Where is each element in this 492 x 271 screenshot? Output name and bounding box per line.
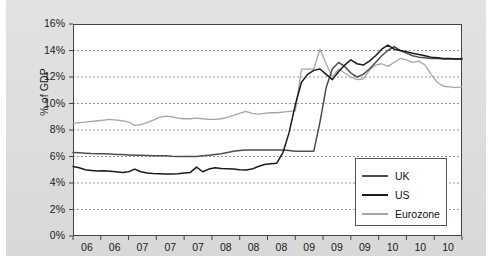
series-line-eurozone	[73, 49, 462, 125]
legend-item-us: US	[362, 186, 410, 204]
x-axis-tick-label: 09	[350, 242, 380, 253]
legend-label: Eurozone	[395, 208, 440, 220]
x-axis-tick-label: 07	[155, 242, 185, 253]
x-axis-tick-label: 07	[127, 242, 157, 253]
y-axis-tick-label: 8%	[25, 124, 65, 135]
x-axis-tick-label: 09	[294, 242, 324, 253]
series-line-uk	[73, 47, 462, 157]
y-axis-tick-label: 14%	[25, 45, 65, 56]
legend-label: US	[395, 189, 410, 201]
x-axis-tick-label: 08	[211, 242, 241, 253]
y-axis-tick-label: 2%	[25, 204, 65, 215]
chart-legend: UKUSEurozone	[355, 158, 447, 226]
x-axis-tick-label: 06	[72, 242, 102, 253]
x-axis-tick-label: 06	[100, 242, 130, 253]
legend-swatch-uk	[362, 175, 388, 177]
legend-item-uk: UK	[362, 167, 410, 185]
y-axis-tick-label: 16%	[25, 18, 65, 29]
x-axis-tick-label: 09	[322, 242, 352, 253]
chart-figure: % of GDP 0%2%4%6%8%10%12%14%16% 06060707…	[0, 0, 492, 271]
y-axis-tick-label: 10%	[25, 98, 65, 109]
legend-swatch-eurozone	[362, 213, 388, 215]
x-axis-tick-label: 10	[405, 242, 435, 253]
y-axis-tick-label: 0%	[25, 230, 65, 241]
x-axis-tick-label: 07	[183, 242, 213, 253]
y-axis-tick-label: 4%	[25, 177, 65, 188]
x-axis-tick-label: 10	[378, 242, 408, 253]
y-axis-tick-label: 12%	[25, 71, 65, 82]
x-axis-tick-label: 08	[239, 242, 269, 253]
y-axis-tick-label: 6%	[25, 151, 65, 162]
legend-label: UK	[395, 170, 410, 182]
x-axis-tick-label: 08	[266, 242, 296, 253]
legend-swatch-us	[362, 194, 388, 196]
x-axis-tick-label: 10	[433, 242, 463, 253]
legend-item-eurozone: Eurozone	[362, 205, 440, 223]
